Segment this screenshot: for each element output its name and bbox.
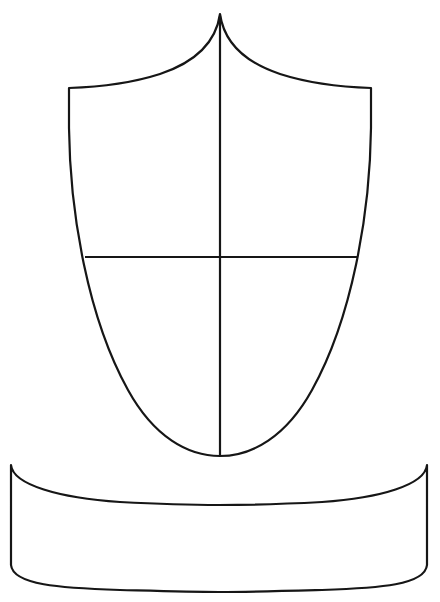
coat-of-arms-template-svg <box>0 0 440 602</box>
artwork-canvas <box>0 0 440 602</box>
